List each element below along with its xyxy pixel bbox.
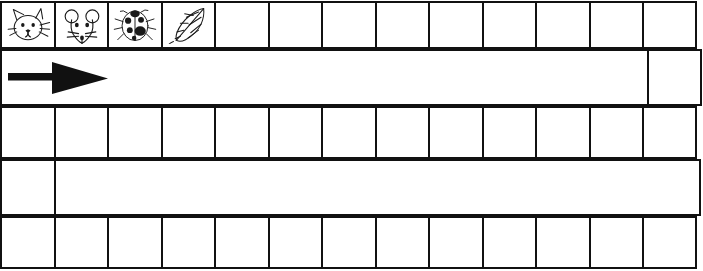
grid-cell[interactable] [482, 1, 538, 49]
grid-cell[interactable] [589, 216, 645, 269]
grid-cell[interactable] [107, 106, 163, 159]
grid-cell[interactable] [321, 1, 377, 49]
cat-face-icon [5, 6, 51, 44]
worksheet-sheet [0, 0, 703, 271]
grid-cell[interactable] [642, 1, 697, 49]
grid-cell[interactable] [214, 216, 270, 269]
picture-row [0, 1, 697, 49]
grid-cell[interactable] [642, 106, 697, 159]
ladybug-icon [112, 6, 158, 44]
grid-cell[interactable] [375, 106, 431, 159]
grid-cell[interactable] [161, 106, 217, 159]
grid-cell[interactable] [268, 1, 324, 49]
grid-cell[interactable] [428, 106, 484, 159]
blank-cell-row-1 [0, 106, 697, 159]
writing-strip-with-arrow[interactable] [0, 49, 649, 106]
grid-cell[interactable] [589, 1, 645, 49]
arrow-strip-row [0, 49, 702, 106]
grid-cell-leaf[interactable] [161, 1, 217, 49]
grid-cell[interactable] [0, 106, 56, 159]
mouse-face-icon [59, 6, 105, 44]
grid-cell[interactable] [375, 1, 431, 49]
right-arrow-icon [8, 61, 110, 95]
grid-cell[interactable] [642, 216, 697, 269]
grid-cell[interactable] [375, 216, 431, 269]
grid-cell[interactable] [535, 216, 591, 269]
leaf-icon [166, 6, 212, 44]
grid-cell[interactable] [268, 216, 324, 269]
grid-cell[interactable] [0, 159, 56, 216]
grid-cell-cat[interactable] [0, 1, 56, 49]
grid-cell[interactable] [54, 106, 110, 159]
grid-cell[interactable] [0, 216, 56, 269]
grid-cell[interactable] [161, 216, 217, 269]
wide-strip-row [0, 159, 701, 216]
blank-cell-row-2 [0, 216, 697, 269]
grid-cell[interactable] [214, 106, 270, 159]
grid-cell[interactable] [589, 106, 645, 159]
grid-cell[interactable] [482, 216, 538, 269]
grid-cell[interactable] [54, 216, 110, 269]
grid-cell[interactable] [428, 216, 484, 269]
grid-cell[interactable] [321, 106, 377, 159]
grid-cell[interactable] [107, 216, 163, 269]
grid-cell[interactable] [482, 106, 538, 159]
grid-cell[interactable] [428, 1, 484, 49]
grid-cell[interactable] [268, 106, 324, 159]
grid-cell[interactable] [214, 1, 270, 49]
grid-cell[interactable] [535, 1, 591, 49]
grid-cell-ladybug[interactable] [107, 1, 163, 49]
grid-cell[interactable] [535, 106, 591, 159]
grid-cell-mouse[interactable] [54, 1, 110, 49]
grid-cell[interactable] [647, 49, 702, 106]
writing-strip[interactable] [54, 159, 701, 216]
grid-cell[interactable] [321, 216, 377, 269]
